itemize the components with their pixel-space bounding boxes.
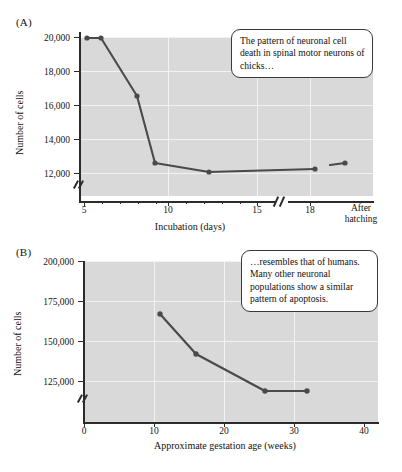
data-point	[304, 388, 309, 393]
data-point	[342, 160, 347, 165]
data-point	[84, 35, 89, 40]
data-point	[193, 351, 198, 356]
data-point	[262, 388, 267, 393]
data-point	[157, 311, 162, 316]
data-point	[206, 169, 211, 174]
figure-apoptosis-neuronal-cell-death: (A) 20,000 18,000 16,000 14,000	[0, 0, 402, 472]
data-point	[134, 93, 139, 98]
callout-b: …resembles that of humans. Many other ne…	[241, 250, 378, 312]
panel-b: (B) 200,000 175,000 150,000 125,000 Numb…	[0, 236, 402, 472]
callout-a: The pattern of neuronal cell death in sp…	[231, 29, 373, 78]
data-point	[152, 160, 157, 165]
data-point	[312, 166, 317, 171]
panel-a: (A) 20,000 18,000 16,000 14,000	[0, 0, 402, 236]
series-b-line	[160, 314, 307, 391]
data-point	[98, 35, 103, 40]
